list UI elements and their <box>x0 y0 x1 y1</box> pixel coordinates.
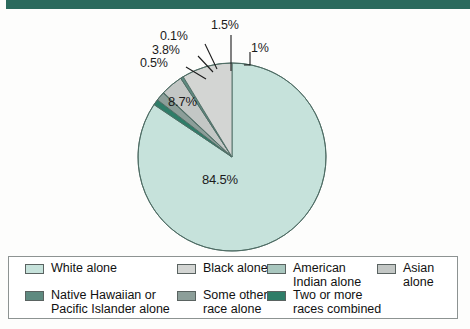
legend-item-native-hawaiian-pacific-islander-alone[interactable]: Native Hawaiian or Pacific Islander alon… <box>25 288 170 316</box>
legend-label-some-other-race-alone: Some other race alone <box>203 288 268 316</box>
legend-swatch-native-hawaiian-pacific-islander-alone <box>25 291 44 301</box>
legend-item-white-alone[interactable]: White alone <box>25 261 117 275</box>
slice-label-white-alone: 84.5% <box>202 172 238 187</box>
slice-label-some-other-race: 1.5% <box>211 18 239 32</box>
legend-item-some-other-race-alone[interactable]: Some other race alone <box>177 288 268 316</box>
legend-label-native-hawaiian-pacific-islander-alone: Native Hawaiian or Pacific Islander alon… <box>51 288 170 316</box>
legend-row: Native Hawaiian or Pacific Islander alon… <box>9 288 457 316</box>
slice-label-asian: 3.8% <box>152 43 180 57</box>
legend-label-white-alone: White alone <box>51 261 117 275</box>
pie-chart-page: 84.5% 8.7% 0.5% 3.8% 0.1% 1.5% 1% White … <box>0 0 470 329</box>
legend-label-asian-alone: Asian alone <box>403 261 457 289</box>
header-accent-bar <box>6 0 470 9</box>
legend-swatch-asian-alone <box>377 264 396 274</box>
legend-item-american-indian-alone[interactable]: American Indian alone <box>267 261 361 289</box>
slice-label-black-alone: 8.7% <box>168 94 197 109</box>
legend-label-black-alone: Black alone <box>203 261 268 275</box>
slice-label-two-or-more: 1% <box>251 41 269 55</box>
pie-chart-graphic <box>0 9 470 253</box>
legend-swatch-american-indian-alone <box>267 264 286 274</box>
slice-label-native-hawaiian: 0.5% <box>140 56 168 70</box>
legend-item-asian-alone[interactable]: Asian alone <box>377 261 457 289</box>
legend-label-two-or-more-races-combined: Two or more races combined <box>293 288 381 316</box>
legend-row: White aloneBlack aloneAmerican Indian al… <box>9 261 457 289</box>
legend-swatch-some-other-race-alone <box>177 291 196 301</box>
legend-swatch-black-alone <box>177 264 196 274</box>
chart-area: 84.5% 8.7% 0.5% 3.8% 0.1% 1.5% 1% <box>0 9 470 253</box>
legend-item-black-alone[interactable]: Black alone <box>177 261 268 275</box>
legend-swatch-two-or-more-races-combined <box>267 291 286 301</box>
legend-item-two-or-more-races-combined[interactable]: Two or more races combined <box>267 288 381 316</box>
legend: White aloneBlack aloneAmerican Indian al… <box>8 256 458 319</box>
legend-swatch-white-alone <box>25 264 44 274</box>
legend-label-american-indian-alone: American Indian alone <box>293 261 361 289</box>
leader-line-1-pct <box>244 52 250 65</box>
slice-label-american-indian: 0.1% <box>160 29 188 43</box>
pie-slices <box>138 63 326 251</box>
